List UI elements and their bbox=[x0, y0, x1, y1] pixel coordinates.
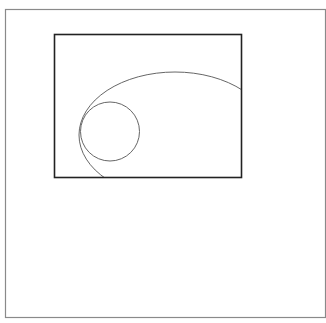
small-circle bbox=[81, 102, 140, 161]
outer-frame bbox=[6, 10, 326, 318]
diagram-canvas bbox=[0, 0, 326, 323]
inner-rectangle bbox=[55, 35, 242, 178]
